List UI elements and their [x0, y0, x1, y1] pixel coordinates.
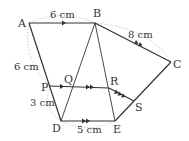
- measure-de: 5 cm: [77, 124, 102, 135]
- label-c: C: [173, 58, 181, 71]
- arrow-icon: [118, 91, 123, 95]
- label-p: P: [41, 81, 49, 94]
- arrow-icon: [86, 119, 90, 124]
- label-r: R: [110, 75, 119, 88]
- arrow-icon: [114, 90, 119, 94]
- label-a: A: [17, 17, 27, 30]
- measure-ab: 6 cm: [50, 9, 75, 20]
- segment-be: [95, 23, 115, 121]
- label-b: B: [93, 7, 101, 20]
- measure-ap: 6 cm: [14, 61, 39, 72]
- label-q: Q: [64, 73, 73, 86]
- segment-pr: [50, 86, 109, 88]
- arrow-icon: [90, 85, 94, 90]
- segment-bd: [61, 23, 95, 121]
- label-e: E: [113, 123, 121, 136]
- measure-bc: 8 cm: [128, 29, 153, 40]
- measurement-labels: 6 cm 8 cm 6 cm 3 cm 5 cm: [14, 9, 153, 135]
- arrow-icon: [82, 119, 86, 124]
- arrow-icon: [62, 21, 66, 26]
- geometry-diagram: A B C D E P Q R S 6 cm 8 cm 6 cm 3 cm 5 …: [0, 0, 189, 141]
- diagram-svg: A B C D E P Q R S 6 cm 8 cm 6 cm 3 cm 5 …: [0, 0, 189, 141]
- arrow-icon: [121, 93, 126, 97]
- label-s: S: [135, 101, 143, 114]
- label-d: D: [52, 122, 61, 135]
- segment-ce: [115, 62, 171, 121]
- arrow-icon: [138, 42, 143, 46]
- arrow-icon: [134, 40, 139, 44]
- measure-pd: 3 cm: [30, 97, 55, 108]
- point-labels: A B C D E P Q R S: [17, 7, 181, 136]
- arrow-icon: [86, 85, 90, 90]
